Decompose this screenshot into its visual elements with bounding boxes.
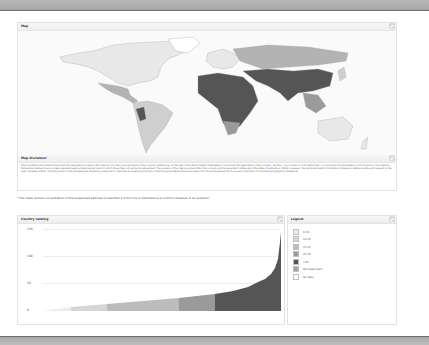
y-tick-100: 100 [27,254,33,258]
footnote: * The mean annual concentration of fine … [17,196,395,200]
legend-item[interactable]: 10-15 [293,236,396,244]
ranking-title: Country ranking [21,217,48,221]
ranking-chart[interactable]: 150 100 50 0 [18,224,284,324]
map-expand-icon[interactable] [389,23,395,29]
legend-item[interactable]: 0-10 [293,228,396,236]
legend-label: 0-10 [303,230,309,234]
ranking-expand-icon[interactable] [277,216,283,222]
ranking-area-svg [43,224,281,314]
legend-header: Legend [288,216,396,224]
legend-expand-icon[interactable] [389,216,395,222]
legend-label: >35 [303,260,309,264]
y-tick-150: 150 [27,227,33,231]
disclaimer-title: Map disclaimer [21,156,47,160]
map-title: Map [21,24,28,28]
legend-label: Not applicable [303,267,322,271]
legend-swatch [293,236,299,242]
map-panel-header: Map [18,23,396,31]
map-disclaimer-panel: Map disclaimer The boundaries and names … [17,155,397,191]
legend-item[interactable]: 15-25 [293,243,396,251]
legend-label: No data [303,275,314,279]
legend-label: 25-35 [303,252,311,256]
ranking-header: Country ranking [18,216,284,224]
legend-swatch [293,229,299,235]
legend-list: 0-10 10-15 15-25 25-35 >35 Not applicabl… [288,224,396,281]
browser-bottom-bar [0,336,429,345]
country-ranking-panel: Country ranking 150 100 50 0 [17,215,285,325]
y-tick-50: 50 [27,281,31,285]
legend-item[interactable]: >35 [293,258,396,266]
legend-item[interactable]: 25-35 [293,251,396,259]
world-map-svg [18,31,396,156]
legend-swatch [293,251,299,257]
legend-label: 10-15 [303,237,311,241]
legend-swatch [293,259,299,265]
legend-swatch [293,266,299,272]
legend-panel: Legend 0-10 10-15 15-25 25-35 >35 Not ap… [287,215,397,325]
legend-item[interactable]: Not applicable [293,266,396,274]
disclaimer-text: The boundaries and names shown and the d… [18,163,396,174]
legend-item[interactable]: No data [293,273,396,281]
legend-swatch [293,244,299,250]
browser-top-bar [0,0,429,11]
legend-title: Legend [291,217,303,221]
map-panel: Map [17,22,397,157]
disclaimer-expand-icon[interactable] [389,155,395,161]
disclaimer-header: Map disclaimer [18,155,396,163]
y-tick-0: 0 [27,308,29,312]
legend-label: 15-25 [303,245,311,249]
legend-swatch [293,274,299,280]
world-map[interactable] [18,31,396,156]
